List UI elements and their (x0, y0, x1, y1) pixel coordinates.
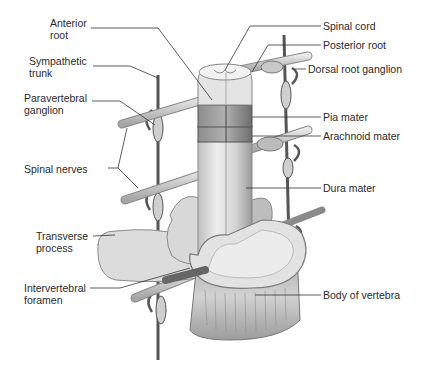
label-transverse-process: Transverse process (36, 230, 88, 254)
label-dorsal-root-ganglion: Dorsal root ganglion (308, 63, 402, 75)
arachnoid-band (198, 126, 252, 142)
spinal-anatomy-diagram: Anterior root Sympathetic trunk Paravert… (0, 0, 433, 372)
label-body-of-vertebra: Body of vertebra (323, 289, 400, 301)
label-intervertebral-foramen: Intervertebral foramen (24, 282, 86, 306)
label-pia-mater: Pia mater (323, 111, 368, 123)
label-sympathetic-trunk: Sympathetic trunk (29, 55, 87, 79)
label-paravertebral-ganglion: Paravertebral ganglion (24, 92, 87, 116)
label-posterior-root: Posterior root (323, 39, 386, 51)
label-anterior-root: Anterior root (50, 17, 87, 41)
label-spinal-cord: Spinal cord (323, 20, 376, 32)
label-spinal-nerves: Spinal nerves (24, 163, 88, 175)
label-arachnoid-mater: Arachnoid mater (323, 130, 400, 142)
label-dura-mater: Dura mater (323, 182, 376, 194)
pia-band (198, 105, 252, 127)
